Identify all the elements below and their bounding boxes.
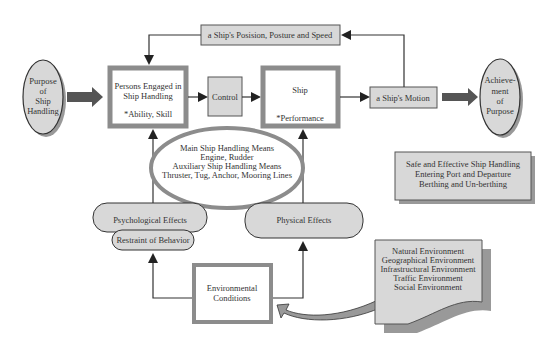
psych-label: Psychological Effects [113, 215, 187, 225]
arrow-env-physical [273, 243, 303, 298]
env-conditions-node: Environmental Conditions [194, 265, 271, 322]
physical-label: Physical Effects [277, 215, 332, 225]
motion-label: a Ship's Motion [376, 93, 430, 103]
ship-note: *Performance [276, 113, 324, 123]
environments-line-5: Social Environment [394, 282, 462, 292]
curved-arrow-env [277, 300, 380, 320]
purpose-line-2: of [39, 86, 46, 96]
env-conditions-line-2: Conditions [213, 293, 250, 303]
restraint-label: Restraint of Behavior [116, 235, 189, 245]
feedback-line-right [343, 35, 404, 87]
achievement-line-3: of [496, 96, 503, 106]
feedback-line-left [149, 35, 201, 63]
feedback-label: a Ship's Posision, Posture and Speed [208, 30, 333, 40]
motion-node: a Ship's Motion [370, 87, 437, 108]
psych-node: Psychological Effects [93, 203, 207, 232]
achievement-line-4: Purpose [486, 106, 514, 116]
environments-node: Natural Environment Geographical Environ… [375, 240, 491, 333]
persons-line-1: Persons Engaged in [114, 81, 182, 91]
ship-handling-diagram: Purpose of Ship Handling Persons Engaged… [0, 0, 544, 351]
means-line-4: Thruster, Tug, Anchor, Mooring Lines [162, 170, 292, 180]
purpose-line-1: Purpose [29, 76, 57, 86]
achievement-node: Achieve- ment of Purpose [480, 59, 523, 138]
means-node: Main Ship Handling Means Engine, Rudder … [151, 128, 303, 208]
purpose-line-4: Handling [27, 106, 59, 116]
goals-line-2: Entering Port and Departure [415, 169, 511, 179]
env-conditions-line-1: Environmental [207, 283, 258, 293]
achievement-line-1: Achieve- [484, 75, 515, 85]
control-label: Control [212, 92, 239, 102]
persons-note: *Ability, Skill [124, 109, 173, 119]
purpose-line-3: Ship [35, 96, 51, 106]
ship-node: Ship *Performance [263, 68, 338, 126]
goals-line-3: Berthing and Un-berthing [419, 179, 508, 189]
goals-node: Safe and Effective Ship Handling Enterin… [395, 152, 535, 204]
thick-arrow-purpose [67, 87, 103, 107]
ship-label: Ship [292, 85, 308, 95]
feedback-node: a Ship's Posision, Posture and Speed [201, 25, 340, 45]
restraint-node: Restraint of Behavior [112, 230, 194, 250]
physical-node: Physical Effects [245, 203, 363, 238]
achievement-line-2: ment [492, 86, 510, 96]
arrow-env-psych [153, 255, 192, 298]
control-node: Control [208, 77, 242, 116]
persons-line-2: Ship Handling [123, 91, 173, 101]
thick-arrow-achievement [442, 88, 478, 106]
purpose-node: Purpose of Ship Handling [23, 60, 66, 137]
persons-node: Persons Engaged in Ship Handling *Abilit… [110, 68, 186, 126]
goals-line-1: Safe and Effective Ship Handling [406, 159, 521, 169]
